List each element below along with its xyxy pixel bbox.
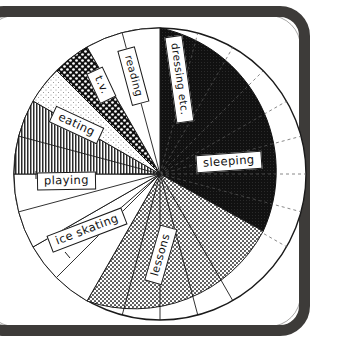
figure-canvas: sleeping lessons ice skating playing eat… [0, 0, 337, 347]
pie-chart: sleeping lessons ice skating playing eat… [0, 14, 320, 334]
slice-label-playing: playing [37, 171, 96, 190]
